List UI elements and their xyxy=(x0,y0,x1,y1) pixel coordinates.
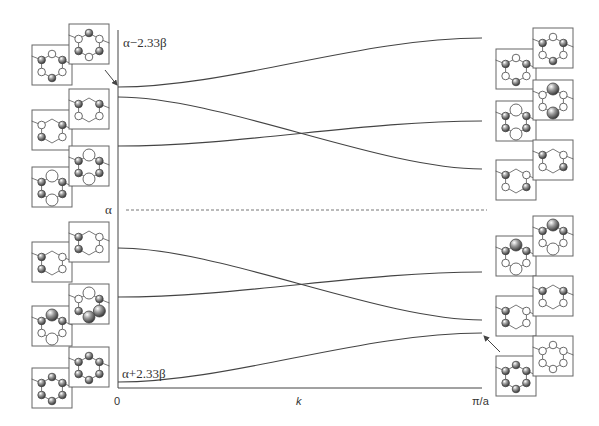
x-end-label: π/a xyxy=(472,396,489,407)
orbital-right-band-4-b xyxy=(533,276,574,316)
orbital-left-band-3-a xyxy=(32,167,73,207)
orbital-right-band-5-b xyxy=(533,216,574,256)
band-6 xyxy=(118,333,482,382)
orbital-left-band-2-a xyxy=(32,110,73,150)
orbital-right-band-4-a xyxy=(496,296,537,336)
x-start-label: 0 xyxy=(114,396,120,407)
band-5 xyxy=(118,272,482,297)
orbital-right-band-6-b xyxy=(533,336,574,376)
orbital-left-band-5-a xyxy=(32,306,73,346)
orbital-left-band-4-b xyxy=(69,222,110,262)
band-structure-figure xyxy=(0,0,599,426)
band-3 xyxy=(118,121,482,146)
orbital-right-band-5-a xyxy=(496,236,537,276)
orbital-right-band-2-a xyxy=(496,160,537,200)
arrow-top-left xyxy=(105,70,117,85)
orbital-left-band-5-b xyxy=(69,284,110,324)
orbital-left-band-2-b xyxy=(69,89,110,129)
y-bottom-label: α+2.33β xyxy=(122,367,166,380)
orbital-left-band-6-b xyxy=(69,347,110,387)
orbital-left-band-1-b xyxy=(69,24,110,64)
orbital-right-band-6-a xyxy=(496,356,537,396)
orbital-right-band-3-b xyxy=(533,80,574,120)
arrow-bottom-right xyxy=(484,336,500,352)
x-axis-label: k xyxy=(296,396,302,407)
orbital-left-band-1-a xyxy=(32,45,73,85)
orbital-right-band-2-b xyxy=(533,140,574,180)
y-mid-label: α xyxy=(105,203,112,216)
band-1 xyxy=(118,38,482,87)
y-top-label: α−2.33β xyxy=(123,36,167,49)
orbital-right-band-3-a xyxy=(496,101,537,141)
orbital-right-band-1-a xyxy=(496,49,537,89)
orbital-right-band-1-b xyxy=(533,28,574,68)
orbital-left-band-3-b xyxy=(69,146,110,186)
orbital-left-band-4-a xyxy=(32,242,73,282)
orbital-sketches-left xyxy=(32,24,110,408)
orbital-left-band-6-a xyxy=(32,368,73,408)
orbital-sketches-right xyxy=(496,28,574,396)
